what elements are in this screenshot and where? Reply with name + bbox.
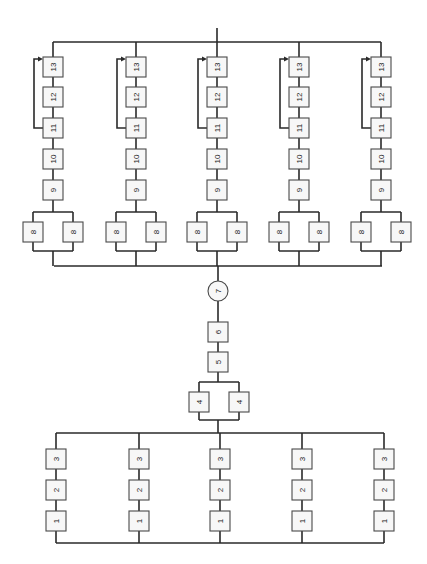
block-1-label: 1 bbox=[380, 518, 389, 523]
block-4-right: 4 bbox=[229, 392, 249, 412]
block-2: 2 bbox=[210, 480, 230, 500]
block-9: 9 bbox=[371, 180, 391, 200]
block-11: 11 bbox=[126, 118, 146, 138]
block-10-label: 10 bbox=[295, 154, 304, 163]
block-10: 10 bbox=[371, 149, 391, 169]
arrow-head-icon bbox=[38, 57, 43, 62]
block-8-right: 8 bbox=[227, 222, 247, 242]
block-11: 11 bbox=[371, 118, 391, 138]
bypass-line bbox=[198, 59, 207, 128]
block-5: 5 bbox=[208, 352, 228, 372]
block-12: 12 bbox=[43, 87, 63, 107]
block-13: 13 bbox=[371, 57, 391, 77]
block-2-label: 2 bbox=[135, 487, 144, 492]
block-2: 2 bbox=[292, 480, 312, 500]
block-8-left-label: 8 bbox=[112, 229, 121, 234]
block-12-label: 12 bbox=[295, 92, 304, 101]
block-3-label: 3 bbox=[135, 456, 144, 461]
block-9-label: 9 bbox=[213, 187, 222, 192]
block-8-right-label: 8 bbox=[397, 229, 406, 234]
block-13-label: 13 bbox=[132, 62, 141, 71]
block-13-label: 13 bbox=[213, 62, 222, 71]
block-8-right: 8 bbox=[146, 222, 166, 242]
block-13: 13 bbox=[126, 57, 146, 77]
arrow-head-icon bbox=[284, 57, 289, 62]
block-12-label: 12 bbox=[49, 92, 58, 101]
block-4-left: 4 bbox=[189, 392, 209, 412]
block-12: 12 bbox=[207, 87, 227, 107]
block-12: 12 bbox=[371, 87, 391, 107]
block-8-right: 8 bbox=[391, 222, 411, 242]
block-11-label: 11 bbox=[49, 123, 58, 132]
block-8-left: 8 bbox=[187, 222, 207, 242]
block-1: 1 bbox=[46, 511, 66, 531]
block-7-label: 7 bbox=[214, 288, 223, 293]
block-11-label: 11 bbox=[132, 123, 141, 132]
block-8-left: 8 bbox=[351, 222, 371, 242]
block-8-right: 8 bbox=[63, 222, 83, 242]
block-12-label: 12 bbox=[213, 92, 222, 101]
block-8-left-label: 8 bbox=[357, 229, 366, 234]
block-6-label: 6 bbox=[214, 329, 223, 334]
block-2: 2 bbox=[46, 480, 66, 500]
block-11-label: 11 bbox=[213, 123, 222, 132]
block-8-right-label: 8 bbox=[233, 229, 242, 234]
block-13-label: 13 bbox=[295, 62, 304, 71]
block-3-label: 3 bbox=[298, 456, 307, 461]
block-10-label: 10 bbox=[132, 154, 141, 163]
block-3: 3 bbox=[210, 449, 230, 469]
block-11: 11 bbox=[207, 118, 227, 138]
bypass-line bbox=[34, 59, 43, 128]
block-8-left-label: 8 bbox=[193, 229, 202, 234]
arrow-head-icon bbox=[202, 57, 207, 62]
block-11: 11 bbox=[289, 118, 309, 138]
block-13-label: 13 bbox=[49, 62, 58, 71]
block-2: 2 bbox=[129, 480, 149, 500]
block-3-label: 3 bbox=[216, 456, 225, 461]
block-9: 9 bbox=[126, 180, 146, 200]
block-1: 1 bbox=[129, 511, 149, 531]
block-2-label: 2 bbox=[52, 487, 61, 492]
block-12: 12 bbox=[289, 87, 309, 107]
block-1-label: 1 bbox=[298, 518, 307, 523]
block-3-label: 3 bbox=[380, 456, 389, 461]
block-3: 3 bbox=[292, 449, 312, 469]
block-2: 2 bbox=[374, 480, 394, 500]
block-9: 9 bbox=[207, 180, 227, 200]
block-1: 1 bbox=[292, 511, 312, 531]
block-3-label: 3 bbox=[52, 456, 61, 461]
block-9-label: 9 bbox=[132, 187, 141, 192]
block-2-label: 2 bbox=[298, 487, 307, 492]
arrow-head-icon bbox=[121, 57, 126, 62]
block-1: 1 bbox=[210, 511, 230, 531]
block-13: 13 bbox=[43, 57, 63, 77]
block-12-label: 12 bbox=[132, 92, 141, 101]
block-12: 12 bbox=[126, 87, 146, 107]
block-10-label: 10 bbox=[49, 154, 58, 163]
bypass-line bbox=[362, 59, 371, 128]
bypass-line bbox=[117, 59, 126, 128]
block-3: 3 bbox=[129, 449, 149, 469]
block-11-label: 11 bbox=[295, 123, 304, 132]
block-4-left-label: 4 bbox=[195, 399, 204, 404]
arrow-head-icon bbox=[366, 57, 371, 62]
block-8-right-label: 8 bbox=[152, 229, 161, 234]
block-1-label: 1 bbox=[216, 518, 225, 523]
block-9: 9 bbox=[289, 180, 309, 200]
block-13: 13 bbox=[289, 57, 309, 77]
block-7: 7 bbox=[208, 281, 228, 301]
block-8-right-label: 8 bbox=[315, 229, 324, 234]
block-3: 3 bbox=[46, 449, 66, 469]
block-10-label: 10 bbox=[213, 154, 222, 163]
block-1-label: 1 bbox=[135, 518, 144, 523]
block-10: 10 bbox=[289, 149, 309, 169]
block-9-label: 9 bbox=[377, 187, 386, 192]
block-9-label: 9 bbox=[49, 187, 58, 192]
block-1-label: 1 bbox=[52, 518, 61, 523]
block-8-left: 8 bbox=[106, 222, 126, 242]
block-1: 1 bbox=[374, 511, 394, 531]
block-6: 6 bbox=[208, 322, 228, 342]
block-11: 11 bbox=[43, 118, 63, 138]
block-8-right: 8 bbox=[309, 222, 329, 242]
block-3: 3 bbox=[374, 449, 394, 469]
